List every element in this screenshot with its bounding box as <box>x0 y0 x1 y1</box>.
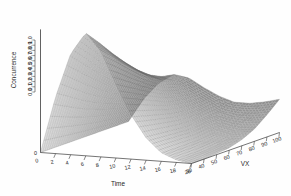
y-tick <box>229 150 230 154</box>
x-tick <box>175 162 177 166</box>
x-tick-label: 12 <box>124 164 131 171</box>
x-tick <box>129 159 131 163</box>
x-tick-label: 2 <box>50 158 54 165</box>
x-tick <box>54 154 56 158</box>
y-tick-label: 70 <box>235 149 243 157</box>
y-tick <box>216 155 217 159</box>
x-tick-label: 8 <box>95 162 99 169</box>
x-tick-label: 4 <box>65 159 69 166</box>
x-tick-label: 18 <box>169 167 176 174</box>
y-tick-label: 40 <box>198 162 206 170</box>
y-tick-label: 100 <box>272 135 283 144</box>
y-tick-label: 30 <box>185 167 193 175</box>
y-tick <box>266 137 267 141</box>
x-tick <box>114 158 116 162</box>
z-tick-label: 1.0 <box>27 36 33 44</box>
y-tick <box>241 146 242 150</box>
x-tick-label: 14 <box>139 165 146 172</box>
x-tick-label: 16 <box>154 166 161 173</box>
surface-plot-figure: 02468101214161820304050607080901000.00.1… <box>0 0 291 196</box>
x-tick <box>99 157 101 161</box>
z-axis-ticks: 0.00.10.20.30.40.50.60.70.80.91.0 <box>27 36 35 96</box>
y-tick <box>203 159 204 163</box>
x-tick-label: 10 <box>109 162 116 169</box>
z-axis-label: Concurrence <box>10 51 17 88</box>
x-axis-label: Time <box>111 180 125 187</box>
y-tick-label: 50 <box>210 158 218 166</box>
x-tick-label: 6 <box>80 161 84 168</box>
origin-label: 0 <box>34 150 37 156</box>
y-axis-label: VX <box>241 160 250 167</box>
y-tick-label: 80 <box>248 145 256 153</box>
y-tick <box>254 141 255 145</box>
plot-canvas: 02468101214161820304050607080901000.00.1… <box>0 0 291 196</box>
y-tick-label: 60 <box>223 153 231 161</box>
x-tick-label: 0 <box>35 157 39 164</box>
x-tick <box>69 155 71 159</box>
x-tick <box>160 161 162 165</box>
x-tick <box>84 156 86 160</box>
x-tick <box>144 160 146 164</box>
y-tick-label: 90 <box>260 140 268 148</box>
